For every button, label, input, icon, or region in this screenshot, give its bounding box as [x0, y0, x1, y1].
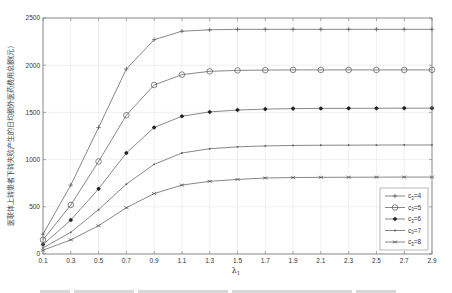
y-tick-label: 0: [36, 250, 40, 257]
x-tick-label: 1.7: [261, 257, 270, 264]
x-tick-label: 2.3: [344, 257, 353, 264]
x-tick-label: 1.9: [289, 257, 298, 264]
x-tick-label: 2.7: [400, 257, 409, 264]
y-tick-label: 1500: [26, 109, 41, 116]
x-axis-label: λ1: [232, 266, 241, 276]
x-tick-label: 0.7: [122, 257, 131, 264]
caption-blurred: [40, 281, 420, 287]
x-tick-label: 1.1: [177, 257, 186, 264]
x-tick-label: 0.1: [38, 257, 47, 264]
legend: c3=4c3=5c3=6c3=7c3=8: [380, 188, 428, 250]
y-tick-label: 2500: [26, 14, 41, 21]
grid-lines: [43, 18, 432, 254]
x-tick-label: 2.9: [427, 257, 436, 264]
y-tick-label: 1000: [26, 156, 41, 163]
line-chart: 0.10.30.50.70.91.11.31.51.71.92.12.32.52…: [0, 0, 452, 293]
x-tick-label: 0.9: [150, 257, 159, 264]
x-tick-label: 0.5: [94, 257, 103, 264]
y-tick-label: 2000: [26, 62, 41, 69]
x-tick-label: 1.5: [233, 257, 242, 264]
x-tick-label: 0.3: [66, 257, 75, 264]
y-axis-label: 医联体上转患者下转失败产生的日均额外医药费用总额(元): [6, 46, 15, 227]
x-tick-label: 1.3: [205, 257, 214, 264]
x-tick-label: 2.1: [316, 257, 325, 264]
x-tick-label: 2.5: [372, 257, 381, 264]
y-tick-label: 500: [29, 203, 40, 210]
y-axis-ticks: 05001000150020002500: [26, 14, 432, 257]
